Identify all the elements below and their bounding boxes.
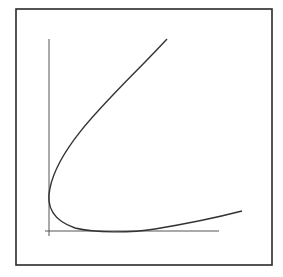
outer-frame <box>16 9 272 265</box>
parabola-curve <box>49 39 242 232</box>
diagram-canvas <box>0 0 283 277</box>
